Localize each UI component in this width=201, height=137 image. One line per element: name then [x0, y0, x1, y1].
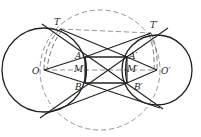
dashed-line-TT: [60, 29, 151, 33]
label-O: O: [32, 66, 40, 76]
label-M: M: [73, 64, 84, 74]
geometry-diagram: T T′ O O′ A A′ M M′ B B′: [0, 0, 201, 137]
label-O-prime: O′: [161, 66, 170, 76]
label-T: T: [54, 17, 61, 27]
label-M-prime: M′: [126, 64, 138, 74]
label-B: B: [74, 82, 82, 92]
label-A: A: [74, 51, 82, 61]
tangent-line-3: [60, 29, 127, 57]
cross-line-B: [85, 83, 160, 108]
label-A-prime: A′: [128, 51, 138, 61]
label-T-prime: T′: [150, 20, 158, 30]
cross-line-Bp: [45, 83, 127, 114]
label-B-prime: B′: [133, 82, 143, 92]
dashed-arc-right-outer: [151, 33, 157, 70]
